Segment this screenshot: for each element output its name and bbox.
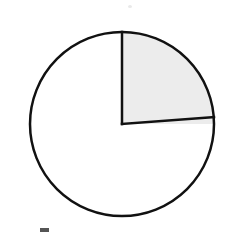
pie-chart-figure: 1/4 3/4 — [0, 0, 225, 235]
pie-chart-canvas — [0, 0, 225, 235]
